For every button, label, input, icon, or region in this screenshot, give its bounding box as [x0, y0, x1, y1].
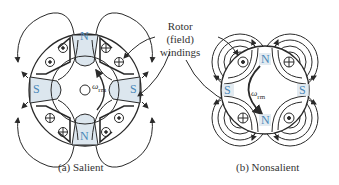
dot-conductor-icon — [284, 113, 294, 123]
caption-salient: (a) Salient — [58, 161, 104, 173]
salient-pole-north-bottom: N — [80, 129, 89, 144]
annotation-line-2: (field) — [160, 33, 200, 46]
cross-conductor-icon — [115, 58, 124, 67]
annotation-line-3: windings — [160, 46, 200, 59]
salient-pole-north-top: N — [80, 29, 89, 44]
nonsalient-pole-south-right: S — [299, 83, 306, 98]
dot-conductor-icon — [46, 58, 55, 67]
dot-conductor-icon — [238, 57, 248, 67]
caption-nonsalient: (b) Nonsalient — [236, 161, 299, 173]
dot-conductor-icon — [102, 128, 111, 137]
cross-conductor-icon — [238, 113, 248, 123]
rotor-windings-annotation: Rotor (field) windings — [160, 20, 200, 59]
salient-pole-south-left: S — [33, 82, 40, 97]
annotation-line-1: Rotor — [160, 20, 200, 33]
salient-pole-south-right: S — [130, 82, 137, 97]
salient-speed-label: ωrm — [92, 81, 106, 94]
nonsalient-speed-label: ωrm — [251, 88, 265, 101]
cross-conductor-icon — [284, 57, 294, 67]
cross-conductor-icon — [59, 128, 68, 137]
cross-conductor-icon — [46, 114, 55, 123]
nonsalient-pole-south-left: S — [224, 83, 231, 98]
nonsalient-pole-north-bottom: N — [261, 113, 270, 128]
nonsalient-pole-north-top: N — [261, 52, 270, 67]
cross-conductor-icon — [102, 44, 111, 53]
dot-conductor-icon — [115, 114, 124, 123]
